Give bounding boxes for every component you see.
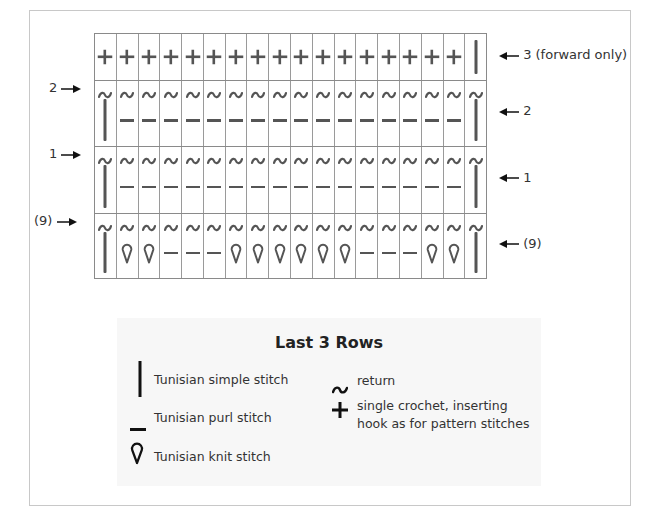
chart-cell [204,34,226,80]
return-icon [316,150,330,158]
row-number: 1 [523,170,531,185]
purl-stitch-icon [403,186,417,189]
chart-cell [465,214,486,278]
chart-cell [95,34,117,80]
legend-title: Last 3 Rows [117,333,541,352]
chart-cell [356,214,378,278]
legend-label-single-crochet-1: single crochet, inserting [357,398,508,413]
return-icon [273,217,287,225]
chart-cell [269,214,291,278]
purl-stitch-icon [447,119,461,122]
purl-stitch-icon [251,186,265,189]
single-crochet-icon [185,50,200,65]
simple-stitch-icon [137,361,143,401]
chart-cell [313,34,335,80]
chart-cell [356,81,378,146]
purl-stitch-icon [229,119,243,122]
return-icon [425,150,439,158]
return-icon [332,379,348,398]
return-icon [425,217,439,225]
simple-stitch-icon [104,165,107,208]
chart-cell [182,147,204,213]
chart-cell [160,81,182,146]
right-row-label: (9) [499,236,542,251]
return-icon [360,217,374,225]
left-row-label: 1 [49,146,81,161]
knit-stitch-icon [317,242,329,262]
purl-stitch-icon [447,186,461,189]
chart-cell [444,147,466,213]
chart-cell [117,34,139,80]
knit-stitch-icon [252,242,264,262]
knit-stitch-icon [339,242,351,262]
chart-cell [400,147,422,213]
chart-cell [291,81,313,146]
return-icon [98,217,112,225]
return-icon [229,150,243,158]
return-icon [142,150,156,158]
purl-stitch-icon [164,186,178,189]
chart-cell [160,214,182,278]
purl-stitch-icon [207,186,221,189]
purl-stitch-icon [382,119,396,122]
chart-cell [247,81,269,146]
single-crochet-icon [120,50,135,65]
legend-label-simple: Tunisian simple stitch [154,372,288,387]
single-crochet-icon [294,50,309,65]
return-icon [447,84,461,92]
chart-cell [335,34,357,80]
return-icon [273,84,287,92]
return-icon [251,217,265,225]
knit-stitch-icon [274,242,286,262]
chart-cell [400,214,422,278]
purl-stitch-icon [164,252,178,255]
purl-stitch-icon [382,252,396,255]
simple-stitch-icon [104,99,107,141]
simple-stitch-icon [474,99,477,141]
return-icon [338,217,352,225]
return-icon [469,217,483,225]
knit-stitch-icon [426,242,438,262]
legend: Last 3 Rows Tunisian simple stitch Tunis… [117,318,541,486]
purl-stitch-icon [425,186,439,189]
single-crochet-icon [272,50,287,65]
single-crochet-icon [207,50,222,65]
purl-stitch-icon [186,186,200,189]
chart-cell [313,214,335,278]
left-row-label: 2 [49,80,81,95]
left-row-label: (9) [34,213,77,228]
chart-cell [139,214,161,278]
simple-stitch-icon [474,165,477,208]
return-icon [447,217,461,225]
chart-row-row3 [95,34,486,80]
simple-stitch-icon [474,232,477,273]
chart-cell [335,81,357,146]
chart-cell [444,34,466,80]
single-crochet-icon [359,50,374,65]
single-crochet-icon [229,50,244,65]
single-crochet-icon [403,50,418,65]
return-icon [382,150,396,158]
purl-stitch-icon [251,119,265,122]
return-icon [469,84,483,92]
row-number: 2 [49,80,57,95]
return-icon [403,217,417,225]
knit-stitch-icon [130,441,144,469]
chart-cell [313,147,335,213]
chart-cell [465,34,486,80]
chart-cell [139,147,161,213]
single-crochet-icon [250,50,265,65]
purl-stitch-icon [294,186,308,189]
return-icon [382,84,396,92]
legend-label-purl: Tunisian purl stitch [154,410,272,425]
return-icon [120,150,134,158]
return-icon [207,84,221,92]
single-crochet-icon [446,50,461,65]
purl-stitch-icon [316,119,330,122]
arrow-left-icon [499,52,519,60]
purl-stitch-icon [207,119,221,122]
return-icon [251,150,265,158]
arrow-left-icon [499,240,519,248]
chart-cell [291,214,313,278]
purl-stitch-icon [360,252,374,255]
